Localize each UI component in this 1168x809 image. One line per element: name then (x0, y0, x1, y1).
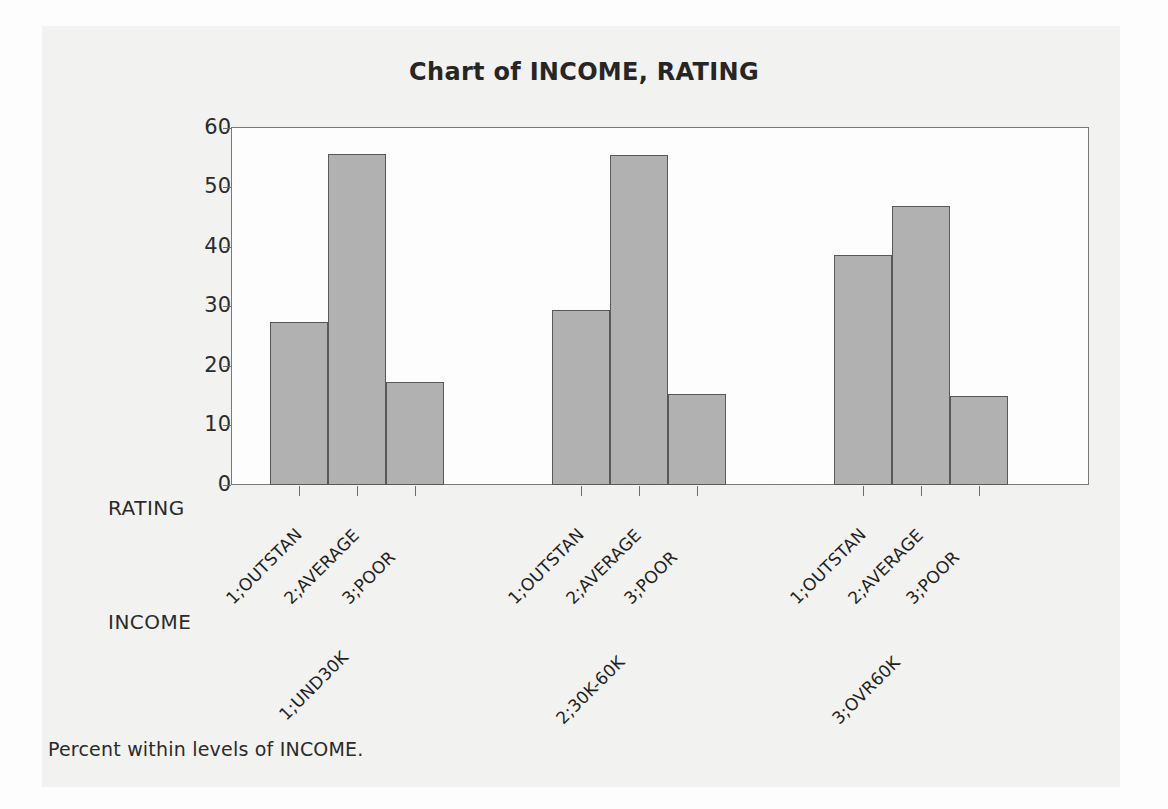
y-tick-mark-10 (223, 425, 231, 426)
y-tick-label-40: 40 (179, 234, 231, 258)
chart-footnote: Percent within levels of INCOME. (48, 738, 364, 760)
y-tick-label-20: 20 (179, 353, 231, 377)
bar-ovr60k-outstan (834, 255, 892, 485)
bars-layer (231, 127, 1089, 485)
x-tick-mark-5 (639, 486, 640, 496)
rating-axis-label: RATING (108, 496, 185, 520)
bar-ovr60k-poor (950, 396, 1008, 486)
x-tick-mark-9 (979, 486, 980, 496)
y-tick-label-60: 60 (179, 115, 231, 139)
y-axis-ticks: 60 50 40 30 20 10 0 (168, 0, 231, 809)
y-tick-mark-50 (223, 187, 231, 188)
bar-ovr60k-average (892, 206, 950, 485)
bar-und30k-outstan (270, 322, 328, 485)
x-tick-mark-2 (357, 486, 358, 496)
x-tick-mark-8 (921, 486, 922, 496)
bar-und30k-average (328, 154, 386, 485)
y-tick-mark-30 (223, 306, 231, 307)
bar-30k60k-poor (668, 394, 726, 485)
y-tick-label-0: 0 (179, 472, 231, 496)
bar-30k60k-outstan (552, 310, 610, 485)
y-tick-label-30: 30 (179, 293, 231, 317)
y-tick-label-10: 10 (179, 412, 231, 436)
x-axis-ticks (231, 486, 1089, 498)
income-axis-label: INCOME (108, 610, 191, 634)
x-tick-mark-1 (299, 486, 300, 496)
page-margin-right (1120, 0, 1168, 809)
page-margin-left (0, 0, 42, 809)
x-tick-mark-3 (415, 486, 416, 496)
y-tick-mark-60 (223, 128, 231, 129)
y-tick-mark-0 (223, 485, 231, 486)
y-tick-label-50: 50 (179, 174, 231, 198)
y-tick-mark-40 (223, 247, 231, 248)
chart-page: Chart of INCOME, RATING Percent 60 50 40… (0, 0, 1168, 809)
bar-und30k-poor (386, 382, 444, 485)
bar-30k60k-average (610, 155, 668, 485)
y-tick-mark-20 (223, 366, 231, 367)
x-tick-mark-4 (581, 486, 582, 496)
x-tick-mark-6 (697, 486, 698, 496)
x-tick-mark-7 (863, 486, 864, 496)
